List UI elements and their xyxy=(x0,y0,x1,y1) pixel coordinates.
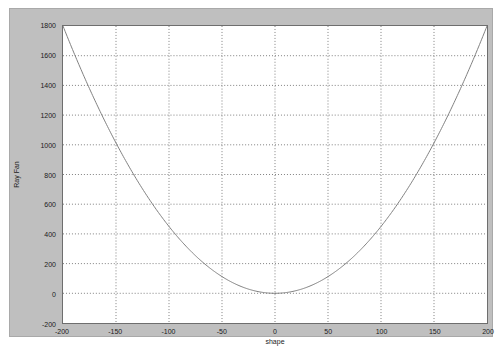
y-tick-label: 1400 xyxy=(10,81,56,88)
plot-svg xyxy=(63,26,487,323)
x-tick-label: -100 xyxy=(161,328,175,335)
y-tick-label: 600 xyxy=(10,201,56,208)
figure-canvas: -200020040060080010001200140016001800 -2… xyxy=(9,8,493,337)
x-tick-label: 150 xyxy=(429,328,441,335)
horizontal-gridlines xyxy=(63,56,487,294)
y-axis-label: Ray Fan xyxy=(13,154,20,194)
y-tick-label: -200 xyxy=(10,321,56,328)
y-tick-label: 200 xyxy=(10,261,56,268)
x-tick-label: -200 xyxy=(55,328,69,335)
x-axis-label: shape xyxy=(265,338,284,345)
y-tick-label: 400 xyxy=(10,231,56,238)
y-tick-label: 1800 xyxy=(10,22,56,29)
x-tick-label: 0 xyxy=(273,328,277,335)
figure-window: -200020040060080010001200140016001800 -2… xyxy=(0,0,501,352)
x-tick-label: -50 xyxy=(217,328,227,335)
y-tick-label: 1000 xyxy=(10,141,56,148)
x-tick-label: -150 xyxy=(108,328,122,335)
x-tick-label: 200 xyxy=(482,328,494,335)
y-tick-label: 0 xyxy=(10,291,56,298)
x-tick-label: 50 xyxy=(324,328,332,335)
plot-axes-area xyxy=(62,25,488,324)
x-tick-label: 100 xyxy=(376,328,388,335)
y-tick-label: 1200 xyxy=(10,111,56,118)
y-tick-label: 1600 xyxy=(10,51,56,58)
